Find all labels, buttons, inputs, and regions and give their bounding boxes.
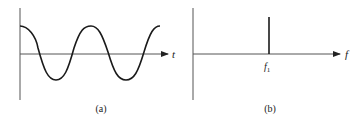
cosine-waveform xyxy=(20,26,160,80)
panel-a-caption: (a) xyxy=(95,103,106,115)
figure: t (a) f f1 (b) xyxy=(0,0,364,122)
spike-label-f1: f1 xyxy=(264,61,271,74)
frequency-axis-label: f xyxy=(345,48,350,60)
panel-a-time-domain: t (a) xyxy=(20,8,176,115)
panel-b-frequency-domain: f f1 (b) xyxy=(193,8,350,115)
time-axis-label: t xyxy=(172,48,176,60)
panel-b-caption: (b) xyxy=(264,103,276,115)
